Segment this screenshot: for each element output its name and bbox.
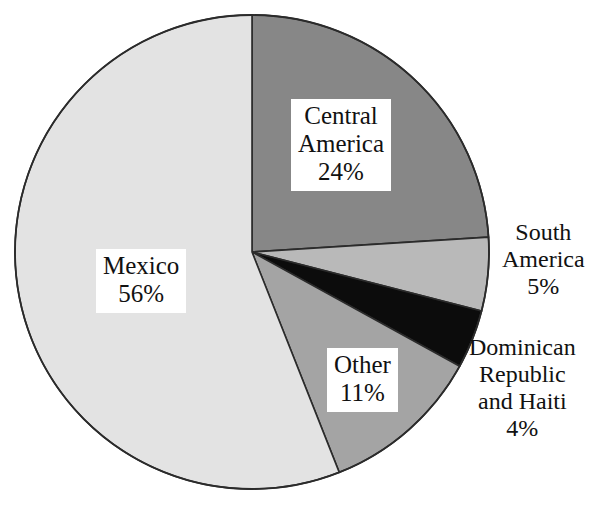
slice-label-south-america-line2: America (502, 246, 585, 273)
slice-label-other-value: 11% (334, 379, 391, 407)
slice-label-south-america-value: 5% (502, 273, 585, 300)
pie-chart-figure: Central America 24% Mexico 56% Other 11%… (0, 0, 599, 506)
slice-label-mexico-value: 56% (103, 280, 179, 308)
slice-label-other: Other 11% (327, 348, 398, 412)
slice-label-central-america-line2: America (298, 130, 384, 158)
slice-label-dominican-value: 4% (469, 415, 576, 442)
slice-label-dominican-line3: and Haiti (469, 388, 576, 415)
slice-label-mexico-line1: Mexico (103, 252, 179, 280)
slice-label-mexico: Mexico 56% (96, 249, 186, 313)
slice-label-dominican-line1: Dominican (469, 334, 576, 361)
slice-label-central-america-value: 24% (298, 158, 384, 186)
slice-label-south-america: South America 5% (502, 219, 585, 300)
slice-label-dominican-republic-and-haiti: Dominican Republic and Haiti 4% (469, 334, 576, 442)
pie-slice-group (15, 15, 489, 489)
slice-label-other-line1: Other (334, 351, 391, 379)
slice-label-central-america-line1: Central (298, 102, 384, 130)
slice-label-dominican-line2: Republic (469, 361, 576, 388)
slice-label-south-america-line1: South (502, 219, 585, 246)
slice-label-central-america: Central America 24% (291, 99, 391, 191)
